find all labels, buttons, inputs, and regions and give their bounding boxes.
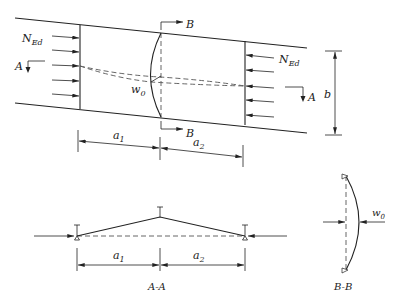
aa-span2-label: a2 [193,249,205,264]
section-a-right-label: A [307,91,316,104]
section-aa: a1 a2 A-A [34,207,287,292]
imperfection-label: w0 [131,83,146,98]
section-b-top-label: B [185,18,194,31]
section-a-right-marker [285,87,303,100]
bb-buckle-curve [346,176,359,270]
aa-stiffener-left [74,225,80,240]
load-label-right: NEd [278,53,300,68]
bb-imperfection-label: w0 [372,207,386,221]
width-label: b [324,88,331,101]
span2-label: a2 [193,136,205,151]
section-b-top-marker [161,22,183,30]
deflection-dashed-lower [80,66,245,86]
load-label-left: NEd [21,32,43,47]
aa-span1-label: a1 [113,249,125,264]
section-b-bottom-marker [161,121,183,129]
plan-view: NEd NEd A A B B w0 b a1 [14,18,342,167]
bb-caption: B-B [333,281,352,292]
buckle-curve [151,33,162,117]
span1-label: a1 [113,129,125,144]
aa-caption: A-A [147,281,166,292]
section-bb: w0 B-B [323,174,386,292]
aa-stiffener-mid [157,207,163,217]
left-load-arrows [52,36,79,96]
section-a-left-label: A [14,60,23,73]
aa-stiffener-right [242,225,248,240]
right-load-arrows [246,55,274,117]
section-a-left-marker [28,61,45,71]
aa-deflected-shape [77,217,245,236]
buckling-diagram: NEd NEd A A B B w0 b a1 [0,0,399,302]
